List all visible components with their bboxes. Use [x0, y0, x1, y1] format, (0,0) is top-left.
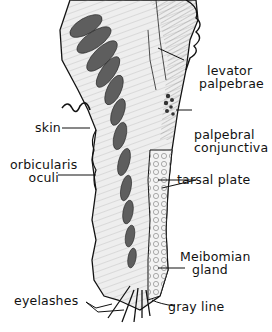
label-tarsal-plate: tarsal plate	[177, 173, 250, 186]
label-line: conjunctiva	[194, 141, 268, 154]
label-orbicularis-oculi: orbicularis oculi	[10, 158, 77, 184]
tarsal-plate	[148, 150, 172, 300]
label-line: oculi	[10, 171, 77, 184]
label-gray-line: gray line	[168, 300, 224, 313]
label-levator-palpebrae: levator palpebrae	[207, 64, 264, 90]
label-palpebral-conjunctiva: palpebral conjunctiva	[194, 128, 268, 154]
label-skin: skin	[35, 121, 61, 134]
label-eyelashes: eyelashes	[14, 294, 78, 307]
label-meibomian-gland: Meibomian gland	[180, 250, 251, 276]
label-line: palpebrae	[199, 77, 264, 90]
label-line: gland	[192, 263, 251, 276]
